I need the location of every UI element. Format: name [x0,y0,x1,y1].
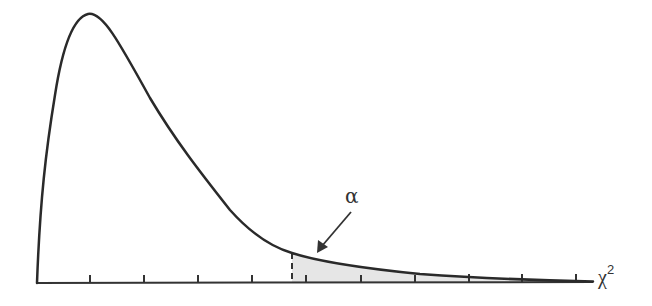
chi-symbol: χ [598,266,607,288]
alpha-shaded-region [292,253,593,283]
alpha-arrow [317,212,351,253]
chi-square-diagram [0,0,652,306]
chi-superscript: 2 [607,262,614,277]
x-axis-label: χ2 [598,264,614,289]
chi-square-density-curve [37,14,593,283]
x-axis [37,282,593,283]
alpha-label: α [345,184,359,208]
